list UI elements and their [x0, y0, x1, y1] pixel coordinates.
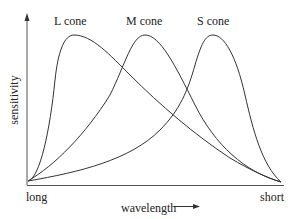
chart-plot-area — [0, 0, 295, 219]
x-tick-short: short — [260, 191, 284, 203]
x-axis-label-text: wavelength — [121, 202, 176, 214]
cone-sensitivity-chart: L cone M cone S cone sensitivity long sh… — [0, 0, 295, 219]
x-axis-direction-arrow-icon — [193, 204, 200, 209]
l-cone-label: L cone — [54, 15, 87, 27]
y-axis-arrow-icon — [25, 13, 30, 21]
m-cone-label: M cone — [126, 15, 162, 27]
y-axis-label: sensitivity — [8, 75, 20, 124]
m-cone-curve — [28, 35, 281, 182]
x-tick-long: long — [26, 191, 47, 203]
s-cone-curve — [28, 35, 281, 182]
s-cone-label: S cone — [197, 15, 229, 27]
l-cone-curve — [28, 35, 281, 182]
x-axis-label: wavelength — [121, 202, 176, 214]
